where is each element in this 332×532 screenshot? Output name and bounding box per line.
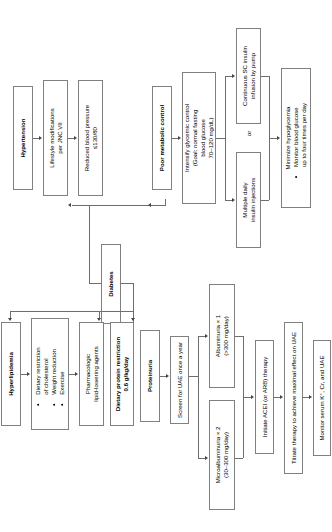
protein-l2: 0.6 g/kg/day	[122, 337, 130, 412]
arrowhead-albuminuria	[205, 334, 208, 338]
mdi-text: Multiple daily insulin injections	[241, 178, 257, 222]
glycemic-split-run	[216, 138, 225, 139]
pharm-l2: lipid-lowering agents	[92, 346, 100, 402]
intensify-glycemic-control-node[interactable]: Intensify glycemic control (Goal: normal…	[182, 72, 216, 204]
poor-metabolic-control-label: Poor metabolic control	[158, 105, 166, 171]
screen-split-bar	[198, 336, 199, 458]
lipid-lifestyle-text: Dietary restriction of cholesterol Weigh…	[34, 347, 66, 400]
albuminuria-node[interactable]: Albuminuria × 1 (>300 mg/day)	[209, 284, 235, 388]
arrowhead-csii	[232, 74, 235, 78]
pharm-l1: Pharmacologic	[84, 346, 92, 402]
or-label: or	[245, 124, 252, 144]
hypo-title: Minimize hypoglycemia	[284, 103, 292, 173]
hyperlipidemia-node[interactable]: Hyperlipidemia	[1, 322, 21, 426]
hypo-bullet-list: Monitor blood glucose up to four times p…	[292, 103, 308, 173]
lipid-b1: Dietary restriction	[34, 347, 42, 394]
arrowhead-pharm-render	[75, 372, 78, 376]
microalbuminuria-text: Microalbuminuria × 2 (30–300 mg/day)	[214, 427, 230, 484]
diabetes-node[interactable]: Diabetes	[101, 244, 121, 324]
screen-uae-label: Screen for UAE once a year	[176, 342, 184, 418]
pharmacologic-text-render: Pharmacologic lipid-lowering agents	[84, 346, 100, 402]
protein-l1: Dietary protein restriction	[114, 337, 122, 412]
lower-vert	[133, 283, 134, 311]
lifestyle-line-2: per JNC VII	[56, 108, 64, 168]
poor-metabolic-control-node[interactable]: Poor metabolic control	[152, 86, 172, 190]
continuous-sc-insulin-node[interactable]: Continuous SC insulin infusion by pump	[236, 28, 261, 124]
initiate-acei-node[interactable]: Initiate ACEI (or ARB) therapy	[255, 340, 274, 454]
upper-bus	[89, 205, 90, 284]
glycemic-l1: Intensify glycemic control	[183, 104, 191, 172]
arrowhead-lifestyle-render	[39, 136, 42, 140]
albuminuria-text: Albuminuria × 1 (>300 mg/day)	[214, 315, 230, 358]
arrowhead-screen	[166, 374, 169, 378]
protein-restriction-text: Dietary protein restriction 0.6 g/kg/day	[114, 337, 130, 412]
microalbuminuria-l2: (30–300 mg/day)	[222, 427, 230, 484]
arrowhead-hypoglycemia	[277, 136, 280, 140]
reduced-bp-l1: Reduced blood pressure	[83, 105, 91, 171]
branch-metabolic-run	[89, 205, 165, 206]
microalb-merge-run	[235, 458, 243, 459]
mdi-l2: insulin injections	[249, 178, 257, 222]
initiate-acei-label: Initiate ACEI (or ARB) therapy	[261, 357, 269, 438]
csii-text: Continuous SC insulin infusion by pump	[241, 46, 257, 106]
lifestyle-modifications-text: Lifestyle modifications per JNC VII	[48, 108, 64, 168]
arrowhead-mdi	[232, 198, 235, 202]
arrowhead-microalbuminuria	[205, 456, 208, 460]
diabetes-stem-up	[89, 283, 101, 284]
arrowhead-hypertension-render	[68, 203, 71, 207]
minimize-hypoglycemia-text: Minimize hypoglycemia Monitor blood gluc…	[284, 103, 308, 173]
albuminuria-l1: Albuminuria × 1	[214, 315, 222, 358]
arrowhead-metabolic-render	[148, 203, 151, 207]
hyperlipidemia-node-label: Hyperlipidemia	[7, 352, 15, 396]
arrowhead-acei	[251, 395, 254, 399]
multiple-daily-injections-node[interactable]: Multiple daily insulin injections	[236, 152, 261, 248]
diabetes-node-label: Diabetes	[107, 271, 115, 296]
dietary-protein-restriction-node[interactable]: Dietary protein restriction 0.6 g/kg/day	[110, 322, 134, 426]
pharmacologic-lipid-node[interactable]: Pharmacologic lipid-lowering agents	[79, 322, 104, 426]
arrowhead-hyperlipidemia-render	[8, 318, 12, 321]
titrate-therapy-label: Titrate therapy to achieve maximal effec…	[290, 332, 298, 464]
reduced-bp-text: Reduced blood pressure ≤130/80	[83, 105, 99, 171]
albuminuria-l2: (>300 mg/day)	[222, 315, 230, 358]
titrate-therapy-node[interactable]: Titrate therapy to achieve maximal effec…	[284, 322, 303, 474]
monitor-serum-label: Monitor serum K⁺, Cr, and UAE	[318, 356, 326, 441]
mdi-merge-run	[261, 200, 269, 201]
minimize-hypoglycemia-node[interactable]: Minimize hypoglycemia Monitor blood gluc…	[281, 68, 311, 208]
hypo-bullet-1b: up to four times per day	[300, 103, 308, 167]
screen-split-run	[189, 376, 198, 377]
branch-metabolic-drop	[165, 199, 166, 206]
lifestyle-line-1: Lifestyle modifications	[48, 108, 56, 168]
hypertension-node-label: Hypertension	[19, 119, 27, 158]
arrowhead-monitor	[309, 395, 312, 399]
lipid-b1b: of cholesterol	[42, 347, 50, 394]
reduced-bp-l2: ≤130/80	[91, 105, 99, 171]
arrowhead-protein-render	[97, 318, 101, 321]
arrowhead-proteinuria-render	[131, 318, 135, 321]
lipid-b2: Weight reduction	[50, 347, 58, 394]
screen-uae-node[interactable]: Screen for UAE once a year	[170, 336, 189, 424]
lower-run-from-diabetes	[121, 283, 133, 284]
glycemic-l3: blood glucose	[199, 104, 207, 172]
arrowhead-bp-render	[74, 136, 77, 140]
lipid-b3: Exercise	[58, 347, 66, 394]
reduced-blood-pressure-node[interactable]: Reduced blood pressure ≤130/80	[78, 80, 103, 196]
lower-distribution-bus	[10, 311, 134, 312]
monitor-serum-node[interactable]: Monitor serum K⁺, Cr, and UAE	[313, 340, 331, 456]
lipid-lifestyle-node[interactable]: Dietary restriction of cholesterol Weigh…	[31, 318, 69, 430]
arrowhead-glycemic	[178, 136, 181, 140]
glycemic-l2: (Goal: normal fasting	[191, 104, 199, 172]
proteinuria-node[interactable]: Proteinuria	[140, 330, 160, 422]
hypertension-node[interactable]: Hypertension	[13, 86, 33, 190]
lifestyle-modifications-node[interactable]: Lifestyle modifications per JNC VII	[43, 80, 68, 196]
arrowhead-titrate	[280, 395, 283, 399]
intensify-glycemic-text: Intensify glycemic control (Goal: normal…	[183, 104, 215, 172]
microalbuminuria-node[interactable]: Microalbuminuria × 2 (30–300 mg/day)	[209, 400, 235, 510]
diagram-render: #stage2 .vbox { position: absolute; box-…	[0, 0, 332, 532]
hypo-bullet-1: Monitor blood glucose	[292, 103, 300, 167]
csii-l2: infusion by pump	[249, 46, 257, 106]
glycemic-l4: 70–120 mg/dL)	[207, 104, 215, 172]
proteinuria-node-label: Proteinuria	[146, 360, 154, 392]
glycemic-split-bar	[225, 76, 226, 200]
csii-l1: Continuous SC insulin	[241, 46, 249, 106]
lipid-bullets: Dietary restriction of cholesterol Weigh…	[34, 347, 66, 400]
